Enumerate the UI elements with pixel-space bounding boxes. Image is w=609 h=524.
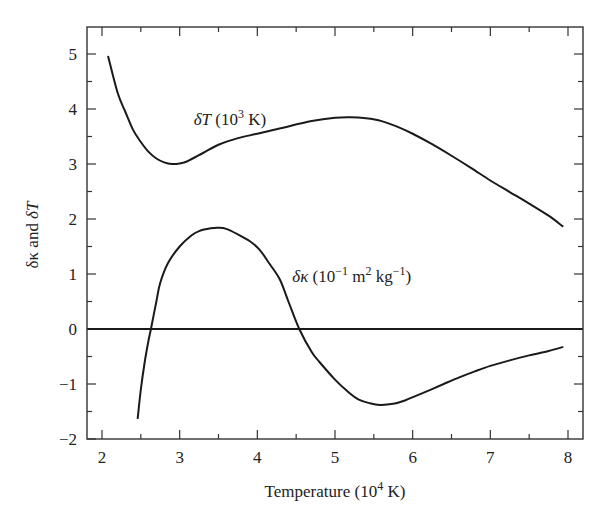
series-delta-kappa-line (138, 228, 563, 418)
series-label-delta-kappa-kg: kg (372, 267, 394, 286)
series-label-delta-T-open: (10 (211, 110, 238, 129)
series-label-delta-kappa-close: ) (406, 267, 412, 286)
x-tick-label: 4 (253, 448, 262, 467)
y-tick-label: 3 (69, 155, 78, 174)
series-label-delta-kappa-symbol: δκ (292, 267, 309, 286)
x-tick-label: 2 (98, 448, 107, 467)
x-axis-label: Temperature (104 K) (265, 479, 406, 501)
y-axis-label-dT: δT (23, 200, 42, 219)
y-tick-label: 4 (69, 100, 78, 119)
x-axis-label-main: Temperature (10 (265, 482, 378, 501)
y-tick-label: −1 (59, 375, 77, 394)
series-label-delta-T-close: K) (244, 110, 266, 129)
y-axis-label: δκ and δT (23, 200, 42, 269)
series-label-delta-T-symbol: δT (194, 110, 213, 129)
line-chart: 2345678−2−1012345 Temperature (104 K) δκ… (0, 0, 609, 524)
series-label-delta-kappa-m: m (348, 267, 365, 286)
x-tick-label: 8 (564, 448, 573, 467)
series-label-delta-kappa-exp1: −1 (335, 264, 348, 278)
x-tick-label: 7 (486, 448, 495, 467)
x-tick-label: 5 (331, 448, 340, 467)
plot-frame (87, 27, 583, 439)
x-tick-label: 3 (175, 448, 184, 467)
x-axis-label-tail: K) (383, 482, 405, 501)
series-label-delta-T: δT (103 K) (194, 107, 266, 129)
axis-tick-labels: 2345678−2−1012345 (59, 45, 572, 467)
y-tick-label: 0 (69, 320, 78, 339)
series-label-delta-kappa-open: (10 (308, 267, 335, 286)
y-axis-label-and: and (23, 219, 42, 252)
series-delta-T-line (108, 57, 562, 226)
y-tick-label: 2 (69, 210, 78, 229)
data-series (108, 57, 562, 418)
y-tick-label: −2 (59, 430, 77, 449)
y-axis-label-kappa: δκ (23, 251, 42, 268)
y-tick-label: 1 (69, 265, 78, 284)
series-label-delta-kappa: δκ (10−1 m2 kg−1) (292, 264, 411, 286)
axis-ticks (87, 27, 583, 439)
series-label-delta-kappa-exp3: −1 (393, 264, 406, 278)
y-tick-label: 5 (69, 45, 78, 64)
x-tick-label: 6 (408, 448, 417, 467)
